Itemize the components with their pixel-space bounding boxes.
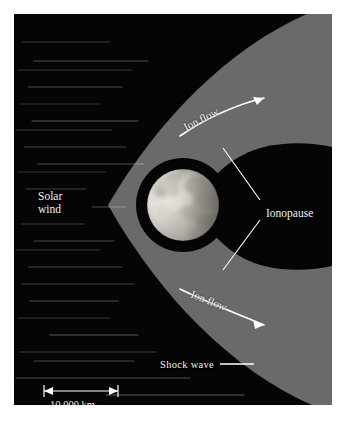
diagram-figure: Ion flow Ion flow Solar wind Ionopause S… bbox=[14, 14, 332, 405]
figure-stage: Ion flow Ion flow Solar wind Ionopause S… bbox=[0, 0, 346, 424]
scale-bar-label: 10,000 km bbox=[50, 399, 95, 405]
shock-wave-label: Shock wave bbox=[160, 359, 214, 371]
ionopause-label: Ionopause bbox=[266, 207, 313, 220]
solar-wind-label: Solar wind bbox=[38, 190, 62, 216]
